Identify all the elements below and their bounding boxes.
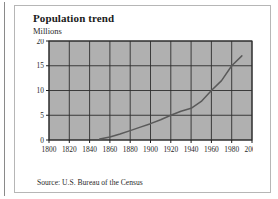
x-tick-label: 1800 [42,145,57,154]
y-tick-label: 20 [37,39,45,46]
y-tick-label: 5 [40,111,44,120]
page-root: Population trend Millions 05101520 18001… [0,0,278,199]
line-chart-svg: 05101520 1800182018401860188019001920194… [33,39,253,164]
page-title: Population trend [33,12,114,24]
page-left-rule [4,2,5,196]
y-tick-label: 15 [37,61,45,70]
x-tick-label: 1940 [184,145,199,154]
y-axis-tick-labels: 05101520 [37,39,45,145]
x-tick-label: 1920 [163,145,178,154]
x-tick-label: 1860 [103,145,118,154]
x-tick-label: 1820 [62,145,77,154]
x-tick-label: 1960 [204,145,219,154]
x-tick-label: 1900 [143,145,158,154]
x-tick-label: 1880 [123,145,138,154]
chart-plot-area: 05101520 1800182018401860188019001920194… [33,39,253,164]
figure-card: Population trend Millions 05101520 18001… [14,5,271,193]
x-tick-label: 2000 [245,145,253,154]
x-tick-label: 1840 [82,145,97,154]
y-tick-label: 10 [37,86,45,95]
x-tick-label: 1980 [224,145,239,154]
x-axis-tick-labels: 1800182018401860188019001920194019601980… [42,145,253,154]
y-tick-label: 0 [40,136,44,145]
source-note: Source: U.S. Bureau of the Census [37,178,143,187]
y-axis-unit-label: Millions [33,26,62,36]
